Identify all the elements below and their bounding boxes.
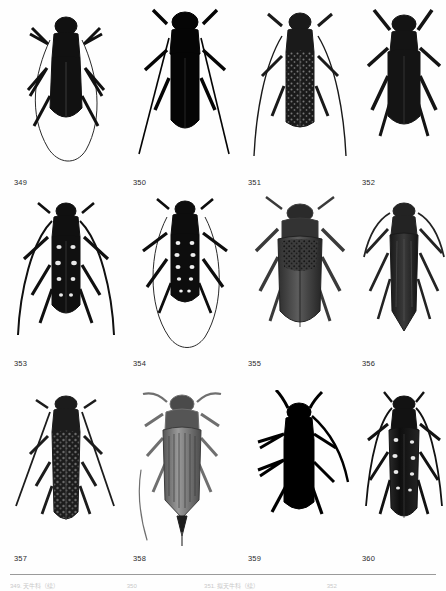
figure-cell-356: 356 [362,195,446,375]
figure-cell-351: 351 [248,4,352,194]
footer-caption: 349. 天牛科（续） 350 351. 拟天牛科（续） 352 [10,582,446,591]
beetle-specimen-icon [362,390,446,552]
figure-label-354: 354 [133,359,146,368]
beetle-specimen-icon [133,195,237,357]
figure-355: 355 [248,195,352,375]
figure-349: 349 [14,4,118,194]
figure-cell-354: 354 [133,195,237,375]
figure-cell-357: 357 [14,390,118,570]
figure-cell-353: 353 [14,195,118,375]
footer-rule [10,574,436,575]
caption-fragment-2: 350 [127,582,137,591]
figure-cell-355: 355 [248,195,352,375]
figure-351: 351 [248,4,352,194]
figure-cell-359: 359 [248,390,352,570]
figure-350: 350 [133,4,237,194]
beetle-specimen-icon [362,195,446,357]
figure-label-351: 351 [248,178,261,187]
figure-label-349: 349 [14,178,27,187]
figure-357: 357 [14,390,118,570]
figure-356: 356 [362,195,446,375]
figure-label-352: 352 [362,178,375,187]
beetle-specimen-icon [248,4,352,176]
figure-cell-350: 350 [133,4,237,194]
figure-label-355: 355 [248,359,261,368]
figure-label-358: 358 [133,554,146,563]
caption-fragment-4: 352 [327,582,337,591]
figure-cell-360: 360 [362,390,446,570]
figure-label-360: 360 [362,554,375,563]
figure-359: 359 [248,390,352,570]
figure-352: 352 [362,4,446,194]
beetle-specimen-icon [248,195,352,357]
figure-label-350: 350 [133,178,146,187]
specimen-plate: 349 3 [0,0,446,591]
plate-row-1: 349 3 [0,4,446,194]
figure-360: 360 [362,390,446,570]
beetle-specimen-icon [14,195,118,357]
caption-fragment-1: 349. 天牛科（续） [10,582,59,591]
figure-label-356: 356 [362,359,375,368]
figure-358: 358 [133,390,237,570]
beetle-specimen-icon [133,390,237,552]
figure-cell-352: 352 [362,4,446,194]
figure-cell-349: 349 [14,4,118,194]
plate-row-2: 353 [0,195,446,375]
figure-cell-358: 358 [133,390,237,570]
plate-row-3: 357 [0,390,446,570]
figure-label-359: 359 [248,554,261,563]
beetle-specimen-icon [133,4,237,176]
beetle-specimen-icon [362,4,446,176]
figure-354: 354 [133,195,237,375]
beetle-specimen-icon [248,390,352,552]
figure-353: 353 [14,195,118,375]
beetle-specimen-icon [14,390,118,552]
beetle-specimen-icon [14,4,118,176]
figure-label-353: 353 [14,359,27,368]
figure-label-357: 357 [14,554,27,563]
caption-fragment-3: 351. 拟天牛科（续） [204,582,259,591]
